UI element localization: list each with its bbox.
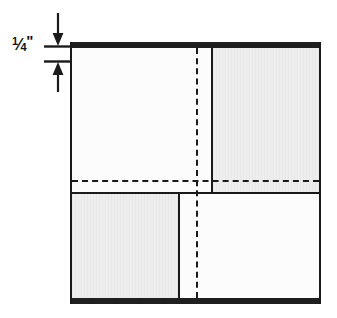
top-edge-bar (72, 42, 319, 48)
bottom-edge-bar (72, 298, 319, 304)
vertical-dashed-centerline (196, 48, 198, 298)
inch-mark: " (26, 32, 33, 49)
panel-outline (70, 42, 321, 304)
region-top-right-shaded (211, 48, 319, 192)
dimension-value-label: 1⁄4" (12, 33, 33, 53)
region-bottom-left-shaded (72, 192, 180, 298)
technical-drawing-figure: 1⁄4" (0, 0, 337, 318)
horizontal-dashed-centerline (72, 180, 319, 182)
